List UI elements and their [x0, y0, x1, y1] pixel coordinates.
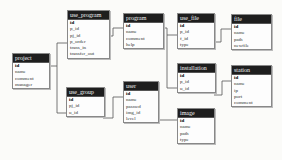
rel-program-installation — [167, 35, 177, 88]
table-use-file[interactable]: use_fileidp_idf_idtype — [177, 13, 215, 49]
table-field: newfile — [232, 43, 271, 49]
rel-use_group-user — [103, 97, 123, 118]
table-header: project — [13, 54, 49, 63]
table-field: u_id — [178, 86, 215, 92]
table-user[interactable]: useridnamepasswdimg_idlevel — [123, 81, 159, 123]
table-field: help — [124, 42, 163, 48]
table-field: manager — [13, 82, 49, 88]
table-field: type — [178, 137, 214, 143]
rel-use_file-file — [213, 29, 231, 42]
table-field: transfer_out — [68, 51, 109, 57]
table-header: program — [124, 14, 163, 23]
table-file[interactable]: fileidnamepathnewfile — [231, 14, 272, 50]
table-field: u_id — [67, 110, 104, 116]
table-station[interactable]: stationidnameipportcomment — [231, 65, 272, 107]
table-program[interactable]: programidnamecommenthelp — [123, 13, 164, 49]
table-image[interactable]: imageidnamepathtype — [177, 108, 215, 144]
table-header: use_program — [68, 11, 109, 20]
rel-installation-station — [214, 81, 231, 95]
table-field: comment — [232, 100, 271, 106]
rel-project-use_group — [57, 66, 66, 113]
table-project[interactable]: projectidnamecommentmanager — [12, 53, 50, 89]
table-header: station — [232, 66, 271, 75]
table-header: use_group — [67, 88, 104, 97]
table-use-program[interactable]: use_programidp_idpj_idp_ordertrans_intra… — [67, 10, 110, 59]
table-header: installation — [178, 64, 215, 73]
table-installation[interactable]: installationidp_idu_id — [177, 63, 216, 93]
table-header: user — [124, 82, 158, 91]
table-header: file — [232, 15, 271, 24]
rel-program-use_file — [162, 28, 177, 35]
table-field: level — [124, 116, 158, 122]
table-header: image — [178, 109, 214, 118]
rel-use_program-program — [108, 28, 123, 36]
rel-project-use_program — [48, 43, 67, 66]
table-header: use_file — [178, 14, 214, 23]
table-use-group[interactable]: use_groupidpj_idu_id — [66, 87, 105, 117]
table-field: type — [178, 42, 214, 48]
